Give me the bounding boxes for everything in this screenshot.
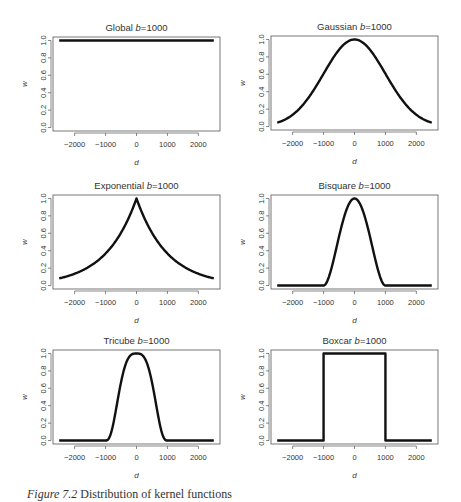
y-tick-label: 1.0 (258, 34, 267, 44)
y-tick-label: 0.6 (40, 228, 49, 238)
y-tick-label: 0.8 (40, 53, 49, 63)
y-axis: 0.00.20.40.60.81.0w (20, 35, 51, 132)
panel-title: Bisquare b=1000 (318, 180, 390, 191)
y-tick-label: 0.2 (258, 418, 267, 428)
y-tick-label: 1.0 (40, 348, 49, 358)
y-tick-label: 0.4 (40, 87, 49, 97)
kernel-curve (59, 198, 214, 278)
kernel-panel-boxcar: Boxcar b=1000−2000−1000010002000d0.00.20… (238, 335, 438, 480)
x-axis-label: d (134, 316, 139, 325)
x-tick-label: −1000 (95, 453, 116, 462)
plot-frame (53, 195, 220, 289)
x-tick-label: 1000 (377, 139, 394, 148)
x-tick-label: −2000 (64, 453, 85, 462)
x-axis: −2000−1000010002000d (282, 132, 425, 166)
y-tick-label: 0.8 (40, 366, 49, 376)
x-axis: −2000−1000010002000d (64, 446, 207, 480)
plot-frame (271, 36, 438, 130)
y-tick-label: 0.6 (258, 383, 267, 393)
y-tick-label: 0.8 (258, 211, 267, 221)
y-axis-label: w (238, 394, 247, 400)
x-axis: −2000−1000010002000d (282, 291, 425, 325)
x-axis-label: d (352, 316, 357, 325)
y-tick-label: 1.0 (258, 193, 267, 203)
y-axis-label: w (238, 239, 247, 245)
y-tick-label: 0.2 (258, 263, 267, 273)
x-tick-label: −1000 (95, 140, 116, 149)
y-axis-label: w (238, 80, 247, 86)
kernel-curve (277, 39, 432, 122)
y-tick-label: 0.4 (40, 400, 49, 410)
caption-text: Distribution of kernel functions (77, 487, 232, 501)
y-tick-label: 0.4 (40, 245, 49, 255)
x-tick-label: 2000 (190, 298, 207, 307)
y-tick-label: 0.4 (258, 86, 267, 96)
y-tick-label: 0.0 (40, 435, 49, 445)
x-tick-label: −1000 (95, 298, 116, 307)
y-axis: 0.00.20.40.60.81.0w (20, 193, 51, 290)
y-tick-label: 0.8 (258, 52, 267, 62)
y-axis-label: w (20, 239, 29, 245)
y-tick-label: 0.0 (258, 435, 267, 445)
panel-title: Gaussian b=1000 (317, 21, 392, 32)
kernel-panel-tricube: Tricube b=1000−2000−1000010002000d0.00.2… (20, 335, 220, 480)
y-tick-label: 0.6 (258, 228, 267, 238)
kernel-panel-global: Global b=1000−2000−1000010002000d0.00.20… (20, 22, 220, 167)
x-tick-label: 0 (352, 298, 356, 307)
x-tick-label: 1000 (159, 453, 176, 462)
y-tick-label: 0.6 (258, 69, 267, 79)
plot-frame (53, 350, 220, 444)
y-tick-label: 0.2 (40, 105, 49, 115)
x-tick-label: 2000 (190, 140, 207, 149)
y-tick-label: 0.6 (40, 383, 49, 393)
x-tick-label: 2000 (408, 298, 425, 307)
x-tick-label: 2000 (408, 453, 425, 462)
x-axis: −2000−1000010002000d (64, 133, 207, 167)
kernel-curve (59, 353, 214, 440)
y-axis-label: w (20, 394, 29, 400)
x-tick-label: 0 (134, 298, 138, 307)
y-tick-label: 1.0 (40, 193, 49, 203)
y-tick-label: 1.0 (40, 35, 49, 45)
kernel-curve (277, 198, 432, 285)
x-axis-label: d (134, 471, 139, 480)
x-axis-label: d (352, 157, 357, 166)
x-tick-label: −2000 (282, 298, 303, 307)
y-tick-label: 0.8 (40, 211, 49, 221)
y-axis: 0.00.20.40.60.81.0w (20, 348, 51, 445)
plot-frame (271, 350, 438, 444)
y-tick-label: 0.8 (258, 366, 267, 376)
kernel-panel-bisquare: Bisquare b=1000−2000−1000010002000d0.00.… (238, 180, 438, 325)
plot-frame (271, 195, 438, 289)
y-tick-label: 0.0 (258, 121, 267, 131)
y-tick-label: 0.2 (40, 263, 49, 273)
y-tick-label: 1.0 (258, 348, 267, 358)
x-tick-label: 1000 (377, 453, 394, 462)
panel-title: Global b=1000 (105, 22, 167, 33)
y-tick-label: 0.0 (258, 280, 267, 290)
y-axis-label: w (20, 81, 29, 87)
y-axis: 0.00.20.40.60.81.0w (238, 34, 269, 131)
x-tick-label: −2000 (282, 139, 303, 148)
kernel-curve (277, 353, 432, 440)
x-tick-label: −2000 (64, 298, 85, 307)
panel-title: Exponential b=1000 (94, 180, 178, 191)
x-tick-label: −1000 (313, 298, 334, 307)
x-tick-label: −1000 (313, 139, 334, 148)
x-tick-label: 0 (134, 140, 138, 149)
kernel-panel-exponential: Exponential b=1000−2000−1000010002000d0.… (20, 180, 220, 325)
y-axis: 0.00.20.40.60.81.0w (238, 348, 269, 445)
x-axis: −2000−1000010002000d (64, 291, 207, 325)
caption-label: Figure 7.2 (27, 487, 77, 501)
y-tick-label: 0.2 (40, 418, 49, 428)
y-tick-label: 0.6 (40, 70, 49, 80)
plot-frame (53, 37, 220, 131)
x-axis: −2000−1000010002000d (282, 446, 425, 480)
y-tick-label: 0.4 (258, 245, 267, 255)
y-tick-label: 0.4 (258, 400, 267, 410)
x-axis-label: d (352, 471, 357, 480)
x-tick-label: 1000 (159, 140, 176, 149)
x-tick-label: 1000 (159, 298, 176, 307)
x-tick-label: 2000 (408, 139, 425, 148)
